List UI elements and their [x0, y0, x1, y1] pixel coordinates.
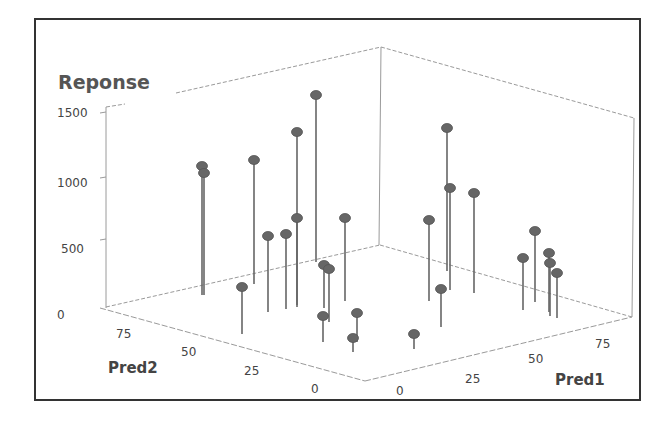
z-tick-mark — [100, 112, 106, 113]
data-point-marker — [281, 230, 292, 239]
data-point-marker — [340, 214, 351, 223]
floor-back-left-edge — [106, 245, 380, 307]
data-point-marker — [530, 227, 541, 236]
y-tick-label: 25 — [244, 364, 259, 378]
x-tick-label: 75 — [595, 337, 610, 351]
back-vertical-edge — [379, 47, 381, 245]
x-tick-label: 0 — [396, 384, 404, 398]
tick-labels: 15001000500002550757550250 — [57, 106, 610, 398]
y-tick-label: 0 — [311, 382, 319, 396]
data-point-marker — [318, 312, 329, 321]
right-vertical-edge — [632, 118, 634, 317]
scatter-3d-plot: 15001000500002550757550250 Reponse Pred2… — [0, 0, 672, 443]
data-point-marker — [552, 269, 563, 278]
plot-box — [100, 47, 634, 381]
y-tick-label: 75 — [116, 327, 131, 341]
data-point-marker — [445, 184, 456, 193]
z-tick-label: 1000 — [57, 176, 88, 190]
z-tick-label: 1500 — [57, 106, 88, 120]
top-edge-left — [176, 47, 381, 93]
data-point-marker — [292, 128, 303, 137]
data-point-marker — [348, 334, 359, 343]
data-point-marker — [237, 283, 248, 292]
z-tick-label: 500 — [61, 242, 84, 256]
z-tick-mark — [100, 177, 106, 178]
pred1-axis-title: Pred1 — [555, 371, 605, 389]
z-tick-mark — [100, 239, 106, 240]
data-point-marker — [352, 309, 363, 318]
top-edge-right — [381, 47, 634, 118]
data-point-marker — [469, 189, 480, 198]
data-point-marker — [544, 249, 555, 258]
data-point-marker — [436, 285, 447, 294]
data-point-marker — [409, 330, 420, 339]
data-point-marker — [442, 124, 453, 133]
z-tick-label: 0 — [57, 308, 65, 322]
top-edge-left — [106, 104, 125, 107]
z-axis-title: Reponse — [58, 71, 150, 93]
data-point-marker — [518, 254, 529, 263]
x-tick-label: 25 — [465, 372, 480, 386]
data-point-marker — [249, 156, 260, 165]
data-point-marker — [263, 232, 274, 241]
pred2-axis-title: Pred2 — [108, 359, 158, 377]
data-point-marker — [311, 91, 322, 100]
data-point-marker — [424, 216, 435, 225]
data-point-marker — [292, 214, 303, 223]
x-tick-label: 50 — [528, 352, 543, 366]
floor-back-right-edge — [380, 245, 632, 317]
data-point-marker — [324, 265, 335, 274]
data-point-marker — [199, 169, 210, 178]
data-point-marker — [545, 259, 556, 268]
y-tick-label: 50 — [181, 345, 196, 359]
